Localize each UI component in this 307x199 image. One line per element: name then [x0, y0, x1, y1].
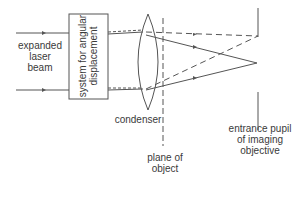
label-line: expanded [12, 40, 68, 51]
label-line: entrance pupil [222, 123, 298, 134]
condenser-lens [138, 14, 158, 110]
label-line: plane of [140, 152, 190, 163]
system-label: system for angular displacement [77, 10, 99, 102]
label-line: laser [12, 51, 68, 62]
plane-label: plane of object [140, 152, 190, 174]
label-line: beam [12, 62, 68, 73]
input-beam-label: expanded laser beam [12, 40, 68, 73]
label-line: of imaging [222, 134, 298, 145]
label-line: objective [222, 145, 298, 156]
condenser-label: condenser [106, 114, 170, 125]
label-line: displacement [88, 10, 99, 102]
label-line: object [140, 163, 190, 174]
pupil-label: entrance pupil of imaging objective [222, 123, 298, 156]
label-line: system for angular [77, 10, 88, 102]
